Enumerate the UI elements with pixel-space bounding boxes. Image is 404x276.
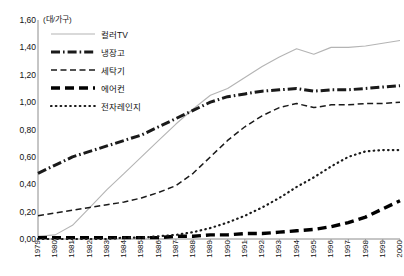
x-axis-tick-label: 1985	[137, 240, 145, 258]
legend-swatch-icon	[50, 82, 96, 94]
legend-item-label: 에어컨	[101, 82, 125, 94]
y-axis-tick-label: 1,40	[2, 42, 36, 52]
x-axis-tick-label: 1983	[103, 240, 111, 258]
y-axis-tick-label: 1,20	[2, 70, 36, 80]
legend-item-label: 세탁기	[101, 64, 125, 76]
series-line-3	[38, 201, 400, 238]
x-axis-tick-label: 1996	[327, 240, 335, 258]
legend-item-1[interactable]: 냉장고	[50, 44, 180, 60]
x-axis-tick-label: 1993	[275, 240, 283, 258]
x-axis-tick-label: 1994	[293, 240, 301, 258]
x-axis-tick-label: 1980	[51, 240, 59, 258]
x-axis-tick-label: 1989	[206, 240, 214, 258]
y-axis-tick-label: 0,20	[2, 207, 36, 217]
y-axis-tick-label: 0,40	[2, 179, 36, 189]
legend-swatch-icon	[50, 28, 96, 40]
legend-item-label: 컬러TV	[101, 28, 128, 40]
x-axis-tick-label: 1986	[155, 240, 163, 258]
legend-item-label: 전자레인지	[101, 100, 141, 112]
x-axis-tick-label: 1984	[120, 240, 128, 258]
x-axis-tick-label: 1981	[68, 240, 76, 258]
x-axis-tick-label: 1995	[310, 240, 318, 258]
chart-legend: 컬러TV냉장고세탁기에어컨전자레인지	[50, 26, 180, 116]
y-axis-tick-label: 1,60	[2, 15, 36, 25]
y-axis-tick-label: 1,00	[2, 97, 36, 107]
x-axis-tick-label: 1990	[224, 240, 232, 258]
legend-swatch-icon	[50, 100, 96, 112]
x-axis-tick-label: 1992	[258, 240, 266, 258]
series-line-4	[38, 150, 400, 239]
x-axis-tick-label: 1979	[34, 240, 42, 258]
legend-item-4[interactable]: 전자레인지	[50, 98, 180, 114]
legend-item-label: 냉장고	[101, 46, 125, 58]
x-axis-tick-label: 1999	[379, 240, 387, 258]
y-axis-tick-label: 0,60	[2, 152, 36, 162]
x-axis-tick-label: 1997	[344, 240, 352, 258]
legend-item-3[interactable]: 에어컨	[50, 80, 180, 96]
x-axis-tick-label: 2000	[396, 240, 404, 258]
x-axis-tick-label: 1998	[362, 240, 370, 258]
legend-swatch-icon	[50, 46, 96, 58]
legend-item-0[interactable]: 컬러TV	[50, 26, 180, 42]
x-axis-tick-label: 1982	[86, 240, 94, 258]
x-axis-labels: 1979198019811982198319841985198619871988…	[38, 240, 400, 276]
x-axis-tick-label: 1991	[241, 240, 249, 258]
legend-item-2[interactable]: 세탁기	[50, 62, 180, 78]
x-axis-tick-label: 1987	[172, 240, 180, 258]
legend-swatch-icon	[50, 64, 96, 76]
y-axis-tick-label: 0,00	[2, 234, 36, 244]
x-axis-tick-label: 1988	[189, 240, 197, 258]
y-axis-labels: 1,601,401,201,000,800,600,400,200,00	[0, 0, 36, 276]
y-axis-tick-label: 0,80	[2, 125, 36, 135]
chart-container: (대/가구) 1,601,401,201,000,800,600,400,200…	[0, 0, 404, 276]
